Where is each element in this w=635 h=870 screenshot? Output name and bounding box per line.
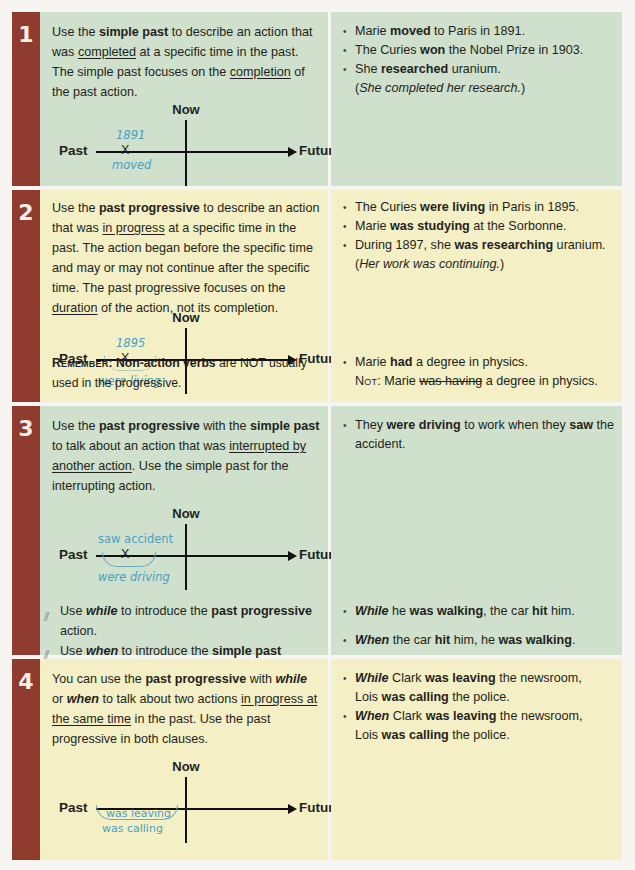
row-number-badge: 1 [12,12,40,186]
explanation-text: Use the past progressive with the simple… [52,416,320,496]
examples-cell: Marie moved to Paris in 1891. The Curies… [331,12,622,186]
grammar-row-4: 4 You can use the past progressive with … [12,659,622,860]
example-item: The Curies were living in Paris in 1895. [343,198,614,217]
explanation-cell: You can use the past progressive with wh… [40,659,328,860]
now-label: Now [166,102,206,117]
example-item: When the car hit him, he was walking. [343,631,614,650]
explanation-cell: Use the simple past to describe an actio… [40,12,328,186]
past-label: Past [59,547,88,562]
examples-cell: They were driving to work when they saw … [331,406,622,655]
example-note: (She completed her research.) [343,79,614,98]
while-example: While he was walking, the car hit him. [343,602,614,621]
row-number-badge: 2 [12,190,40,402]
timeline-annotation-above: was leaving [106,807,171,820]
timeline-diagram: Now Past Future was leaving was calling [40,759,328,849]
arrow-right-icon [288,551,297,561]
now-line [185,524,187,590]
examples-cell: The Curies were living in Paris in 1895.… [331,190,622,402]
grammar-row-1: 1 Use the simple past to describe an act… [12,12,622,186]
nonaction-examples: Marie had a degree in physics. Not: Mari… [343,353,614,391]
timeline-diagram: Now Past Future X 1891 moved [40,102,328,192]
now-label: Now [166,506,206,521]
timeline-annotation-above: 1891 [116,128,145,142]
arrow-right-icon [288,147,297,157]
now-line [185,120,187,186]
example-item: Marie moved to Paris in 1891. [343,22,614,41]
example-item: Marie was studying at the Sorbonne. [343,217,614,236]
example-item: While Clark was leaving the newsroom,Loi… [343,669,614,707]
now-line [185,777,187,843]
when-example: When the car hit him, he was walking. [343,631,614,650]
timeline-annotation-above: 1895 [116,336,145,350]
timeline-annotation-below: was calling [102,822,163,835]
row-number-badge: 3 [12,406,40,655]
arrow-right-icon [288,804,297,814]
timeline-annotation-below: moved [112,158,151,172]
example-note: (Her work was continuing.) [343,255,614,274]
now-label: Now [166,310,206,325]
grammar-row-2: 2 Use the past progressive to describe a… [12,190,622,402]
remember-note: Remember: Non-action verbs are NOT usual… [52,353,320,393]
timeline-annotation-above: saw accident [98,532,173,546]
now-label: Now [166,759,206,774]
timeline-diagram: Now Past Future X saw accident were driv… [40,506,328,596]
past-label: Past [59,800,88,815]
row-number-badge: 4 [12,659,40,860]
past-label: Past [59,143,88,158]
example-item: They were driving to work when they saw … [343,416,614,454]
checkmark-slash-icon: ⫽ [44,607,49,627]
examples-list: They were driving to work when they saw … [343,416,614,454]
explanation-text: Use the simple past to describe an actio… [52,22,320,102]
examples-cell: While Clark was leaving the newsroom,Loi… [331,659,622,860]
event-marker: X [121,143,129,157]
grammar-row-3: 3 Use the past progressive with the simp… [12,406,622,655]
example-item: During 1897, she was researching uranium… [343,236,614,255]
duration-arc [102,552,156,567]
example-item: Marie had a degree in physics. [343,353,614,372]
explanation-text: You can use the past progressive with wh… [52,669,320,749]
examples-list: While Clark was leaving the newsroom,Loi… [343,669,614,745]
examples-list: The Curies were living in Paris in 1895.… [343,198,614,274]
explanation-cell: Use the past progressive with the simple… [40,406,328,655]
usage-bullet: ⫽ Use while to introduce the past progre… [42,601,320,641]
example-item: She researched uranium. [343,60,614,79]
timeline-annotation-below: were driving [98,570,170,584]
examples-list: Marie moved to Paris in 1891. The Curies… [343,22,614,98]
incorrect-example: Not: Marie was having a degree in physic… [343,372,614,391]
example-item: While he was walking, the car hit him. [343,602,614,621]
explanation-cell: Use the past progressive to describe an … [40,190,328,402]
example-item: The Curies won the Nobel Prize in 1903. [343,41,614,60]
example-item: When Clark was leaving the newsroom,Lois… [343,707,614,745]
explanation-text: Use the past progressive to describe an … [52,198,320,318]
